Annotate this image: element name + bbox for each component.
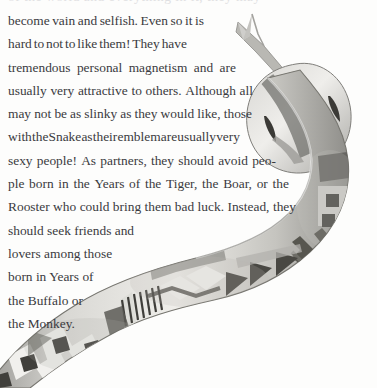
square-band	[318, 186, 362, 229]
text-line: becomevainandselfish.Evensoitis	[8, 9, 204, 32]
body-text: becomevainandselfish.Evensoitis hardtono…	[8, 9, 308, 335]
text-line: maynotbeasslinkyastheywouldlike,those	[8, 102, 252, 125]
text-line: plebornintheYearsoftheTiger,theBoar,orth…	[8, 172, 289, 195]
band-ring-1	[318, 150, 364, 182]
text-line: tremendouspersonalmagnetismandare	[8, 56, 236, 79]
text-line: the Monkey.	[8, 312, 101, 335]
text-line: sexypeople!Aspartners,theyshouldavoidpeo…	[8, 149, 276, 172]
text-line: hardtonottolikethem!Theyhave	[8, 32, 187, 55]
text-line: the Buffalo or	[8, 289, 117, 312]
text-line: withtheSnakeastheiremblemareusuallyvery	[8, 125, 240, 148]
text-line: should seek friends and	[8, 219, 174, 242]
lower-zigzag-band	[0, 326, 102, 388]
text-line: usuallyveryattractivetoothers.Althoughal…	[8, 79, 253, 102]
text-line: lovers among those	[8, 242, 139, 265]
clipped-text-line: of the world and everything in it, they …	[0, 0, 377, 7]
text-line: Roosterwhocouldbringthembadluck.Instead,…	[8, 195, 296, 218]
book-page: of the world and everything in it, they …	[0, 0, 377, 388]
clipped-text: of the world and everything in it, they …	[8, 0, 377, 5]
text-line: born in Years of	[8, 265, 126, 288]
